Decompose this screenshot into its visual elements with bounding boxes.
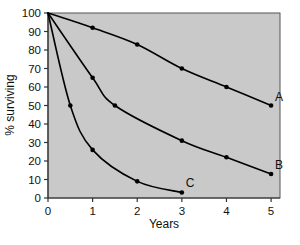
series-label-a: A: [275, 90, 283, 104]
x-axis-title: Years: [149, 217, 179, 231]
data-point-c: [180, 190, 185, 195]
x-axis-ticks: [48, 198, 271, 202]
data-point-c: [90, 148, 95, 153]
x-axis-tick-labels: 012345: [45, 205, 274, 217]
y-tick-label: 80: [28, 44, 41, 56]
data-point-c: [68, 103, 73, 108]
y-tick-label: 70: [28, 63, 41, 75]
y-tick-label: 100: [22, 7, 41, 19]
data-point-b: [90, 75, 95, 80]
plot-area-background: [48, 13, 280, 198]
x-tick-label: 5: [268, 205, 274, 217]
x-tick-label: 1: [89, 205, 95, 217]
y-tick-label: 0: [35, 192, 41, 204]
x-tick-label: 2: [134, 205, 140, 217]
data-point-a: [135, 42, 140, 47]
series-label-c: C: [186, 176, 195, 190]
data-point-a: [180, 66, 185, 71]
series-label-b: B: [275, 158, 283, 172]
x-tick-label: 4: [223, 205, 230, 217]
data-point-c: [135, 179, 140, 184]
x-tick-label: 3: [179, 205, 185, 217]
y-tick-label: 40: [28, 118, 41, 130]
y-tick-label: 50: [28, 100, 41, 112]
data-point-b: [224, 155, 229, 160]
data-point-a: [90, 26, 95, 31]
y-tick-label: 60: [28, 81, 41, 93]
y-tick-label: 20: [28, 155, 41, 167]
y-tick-label: 30: [28, 137, 41, 149]
data-point-a: [269, 103, 274, 108]
y-tick-label: 10: [28, 174, 41, 186]
figure: 0102030405060708090100 012345 ABC Years …: [0, 0, 300, 245]
y-axis-tick-labels: 0102030405060708090100: [22, 7, 41, 204]
data-point-b: [269, 172, 274, 177]
survival-curve-chart: 0102030405060708090100 012345 ABC Years …: [0, 0, 300, 245]
data-point-b: [113, 103, 118, 108]
x-tick-label: 0: [45, 205, 51, 217]
y-axis-title: % surviving: [3, 74, 17, 135]
data-point-a: [224, 85, 229, 90]
y-tick-label: 90: [28, 26, 41, 38]
data-point-b: [180, 138, 185, 143]
